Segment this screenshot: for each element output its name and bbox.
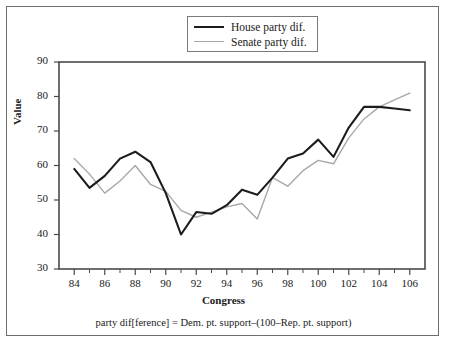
- y-tick-label: 60: [26, 158, 48, 170]
- y-tick-label: 30: [26, 261, 48, 273]
- y-tick-label: 50: [26, 192, 48, 204]
- x-tick-label: 94: [215, 277, 239, 289]
- x-tick-label: 102: [337, 277, 361, 289]
- x-tick-label: 86: [93, 277, 117, 289]
- x-tick-label: 106: [398, 277, 422, 289]
- x-tick-label: 96: [245, 277, 269, 289]
- y-tick-label: 40: [26, 227, 48, 239]
- x-tick-label: 88: [123, 277, 147, 289]
- x-tick-label: 90: [154, 277, 178, 289]
- x-tick-label: 104: [367, 277, 391, 289]
- x-tick-label: 92: [184, 277, 208, 289]
- x-tick-label: 100: [306, 277, 330, 289]
- x-tick-label: 84: [62, 277, 86, 289]
- x-axis-title: Congress: [7, 294, 440, 306]
- y-tick-label: 70: [26, 123, 48, 135]
- y-axis-title: Value: [11, 99, 23, 126]
- plot-area: 3040506070809084868890929496981001021041…: [7, 7, 440, 337]
- x-tick-label: 98: [276, 277, 300, 289]
- figure-caption: party dif[ference] = Dem. pt. support–(1…: [7, 317, 440, 328]
- y-tick-label: 90: [26, 54, 48, 66]
- y-tick-label: 80: [26, 89, 48, 101]
- figure-panel: House party dif. Senate party dif. 30405…: [6, 6, 439, 336]
